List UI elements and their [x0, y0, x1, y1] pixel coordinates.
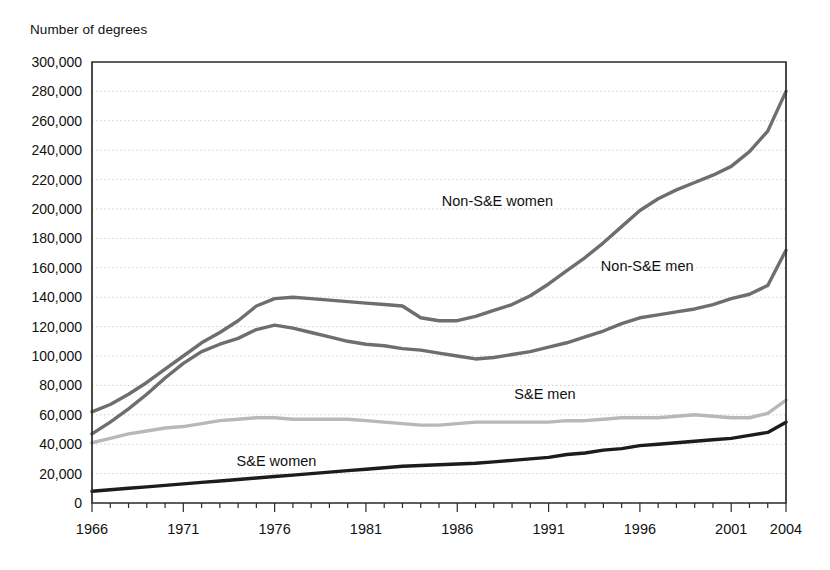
y-tick-label: 300,000 [31, 54, 82, 70]
y-tick-label: 100,000 [31, 348, 82, 364]
y-tick-label: 220,000 [31, 172, 82, 188]
series-label: Non-S&E men [601, 258, 694, 274]
y-tick-label: 240,000 [31, 142, 82, 158]
y-tick-label: 80,000 [39, 377, 82, 393]
plot-axis-frame [92, 62, 786, 503]
y-tick-label: 280,000 [31, 83, 82, 99]
chart-figure: Number of degrees 300,000280,000260,0002… [0, 0, 830, 570]
series-line [92, 422, 786, 491]
y-tick-label: 60,000 [39, 407, 82, 423]
y-tick-label: 260,000 [31, 113, 82, 129]
y-tick-label: 200,000 [31, 201, 82, 217]
x-tick-label: 1966 [76, 521, 108, 537]
y-tick-label: 0 [74, 495, 82, 511]
x-tick-label: 1986 [441, 521, 473, 537]
series-line [92, 250, 786, 434]
y-tick-label: 180,000 [31, 230, 82, 246]
y-tick-label: 160,000 [31, 260, 82, 276]
x-tick-label: 1971 [167, 521, 199, 537]
x-tick-label: 1991 [532, 521, 564, 537]
data-series-lines [92, 91, 786, 491]
series-label: S&E men [514, 386, 575, 402]
y-tick-label: 120,000 [31, 319, 82, 335]
y-tick-label: 40,000 [39, 436, 82, 452]
series-line [92, 400, 786, 443]
x-axis-tick-labels: 196619711976198119861991199620012004 [76, 521, 802, 537]
x-tick-label: 2001 [715, 521, 747, 537]
x-tick-label: 1981 [350, 521, 382, 537]
line-chart: 300,000280,000260,000240,000220,000200,0… [0, 0, 830, 570]
x-axis-tickmarks [92, 503, 786, 512]
x-tick-label: 2004 [770, 521, 802, 537]
x-tick-label: 1976 [258, 521, 290, 537]
y-axis-tick-labels: 300,000280,000260,000240,000220,000200,0… [31, 54, 82, 511]
series-label: Non-S&E women [442, 193, 553, 209]
y-tick-label: 20,000 [39, 466, 82, 482]
series-label: S&E women [237, 453, 317, 469]
series-line [92, 91, 786, 411]
x-tick-label: 1996 [624, 521, 656, 537]
y-tick-label: 140,000 [31, 289, 82, 305]
